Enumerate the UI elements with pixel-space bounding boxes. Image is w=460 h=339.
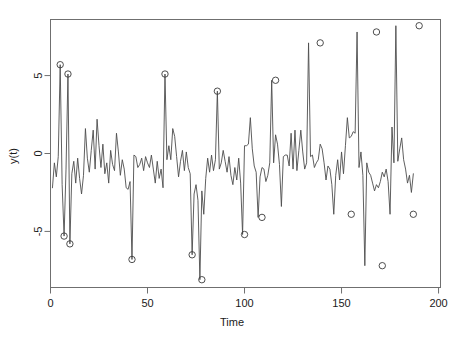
time-series-plot: 050100150200 -505 Time y(t) (0, 0, 460, 339)
x-tick-label: 200 (429, 297, 447, 309)
y-tick-label: -5 (32, 227, 44, 237)
x-axis-title: Time (220, 316, 244, 328)
y-tick-label: 0 (32, 150, 44, 156)
chart-canvas: 050100150200 -505 Time y(t) (0, 0, 460, 339)
y-tick-label: 5 (32, 73, 44, 79)
x-tick-label: 0 (47, 297, 53, 309)
x-tick-label: 100 (235, 297, 253, 309)
x-tick-label: 50 (141, 297, 153, 309)
y-axis-title: y(t) (7, 148, 19, 164)
x-tick-label: 150 (332, 297, 350, 309)
